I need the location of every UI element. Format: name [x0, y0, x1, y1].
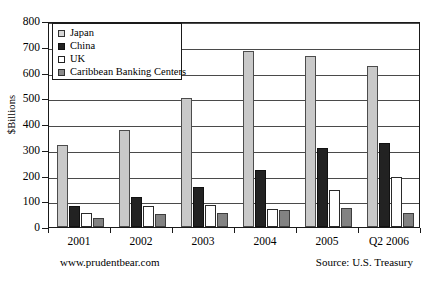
bar-caribbean-2005	[341, 208, 352, 227]
source-watermark: www.prudentbear.com	[60, 256, 159, 268]
bar-caribbean-2002	[155, 214, 166, 227]
bar-uk-2003	[205, 205, 216, 227]
y-tick-label-100: 100	[6, 196, 40, 208]
legend-swatch-japan-icon	[58, 30, 65, 37]
bar-uk-2004	[267, 209, 278, 227]
chart-legend: JapanChinaUKCaribbean Banking Centers	[52, 23, 182, 80]
legend-swatch-china-icon	[58, 43, 65, 50]
bar-japan-2004	[243, 51, 254, 227]
y-axis-title: $Billions	[6, 75, 17, 155]
x-tick-label-2003: 2003	[172, 236, 234, 248]
bar-china-Q2-2006	[379, 143, 390, 227]
bar-japan-2003	[181, 98, 192, 227]
gridline-100	[49, 203, 419, 204]
bar-caribbean-2004	[279, 210, 290, 228]
bar-japan-2002	[119, 130, 130, 227]
bar-caribbean-2001	[93, 218, 104, 227]
legend-label: Caribbean Banking Centers	[70, 67, 186, 78]
x-tick-label-Q2-2006: Q2 2006	[358, 236, 420, 248]
x-tick-mark-1	[172, 228, 173, 233]
x-tick-mark-0	[110, 228, 111, 233]
bar-uk-2005	[329, 190, 340, 227]
bar-china-2004	[255, 170, 266, 227]
bar-japan-2005	[305, 56, 316, 227]
x-tick-label-2005: 2005	[296, 236, 358, 248]
bar-japan-2001	[57, 145, 68, 227]
y-tick-label-200: 200	[6, 171, 40, 183]
x-tick-label-2002: 2002	[110, 236, 172, 248]
source-credit: Source: U.S. Treasury	[316, 256, 413, 268]
bar-china-2005	[317, 148, 328, 227]
x-tick-mark-4	[358, 228, 359, 233]
bar-uk-Q2-2006	[391, 177, 402, 227]
legend-item-caribbean: Caribbean Banking Centers	[58, 66, 181, 79]
chart-container: 0100200300400500600700800 $Billions 2001…	[0, 0, 431, 287]
gridline-300	[49, 152, 419, 153]
legend-item-japan: Japan	[58, 27, 181, 40]
bar-china-2003	[193, 187, 204, 227]
x-tick-mark-3	[296, 228, 297, 233]
y-tick-label-800: 800	[6, 16, 40, 28]
x-tick-mark-origin	[48, 228, 49, 233]
bar-uk-2001	[81, 213, 92, 227]
y-tick-label-700: 700	[6, 42, 40, 54]
x-tick-label-2001: 2001	[48, 236, 110, 248]
bar-caribbean-2003	[217, 213, 228, 227]
gridline-500	[49, 100, 419, 101]
bar-uk-2002	[143, 206, 154, 227]
bar-china-2001	[69, 206, 80, 227]
x-tick-label-2004: 2004	[234, 236, 296, 248]
bar-japan-Q2-2006	[367, 66, 378, 227]
legend-label: UK	[70, 54, 85, 65]
bar-china-2002	[131, 197, 142, 227]
gridline-200	[49, 178, 419, 179]
legend-item-china: China	[58, 40, 181, 53]
legend-label: China	[70, 41, 95, 52]
x-tick-mark-5	[420, 228, 421, 233]
legend-label: Japan	[70, 28, 94, 39]
legend-swatch-caribbean-icon	[58, 69, 65, 76]
gridline-400	[49, 126, 419, 127]
x-tick-mark-2	[234, 228, 235, 233]
legend-swatch-uk-icon	[58, 56, 65, 63]
legend-item-uk: UK	[58, 53, 181, 66]
y-tick-label-0: 0	[6, 222, 40, 234]
bar-caribbean-Q2-2006	[403, 213, 414, 227]
